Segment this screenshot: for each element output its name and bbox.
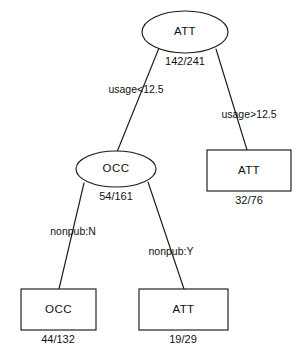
edge-nonpub-y-line <box>148 182 184 289</box>
tree-canvas: ATT 142/241 OCC 54/161 ATT 32/76 OCC 44/… <box>0 0 306 352</box>
node-occ-internal-stat: 54/161 <box>99 190 133 202</box>
node-att-leaf-right-label: ATT <box>238 164 260 176</box>
edge-usage-lt-line <box>117 48 159 152</box>
edge-label-usage-gt: usage>12.5 <box>221 108 276 120</box>
decision-tree-diagram: ATT 142/241 OCC 54/161 ATT 32/76 OCC 44/… <box>0 0 306 352</box>
edge-label-nonpub-n: nonpub:N <box>50 225 96 237</box>
node-occ-internal-label: OCC <box>103 162 130 174</box>
node-root-label: ATT <box>174 25 196 37</box>
node-att-leaf-right-stat: 32/76 <box>235 194 263 206</box>
edge-label-usage-lt: usage<12.5 <box>108 83 163 95</box>
node-att-leaf-bottom-label: ATT <box>172 303 194 315</box>
node-root-stat: 142/241 <box>165 55 205 67</box>
node-occ-leaf-stat: 44/132 <box>41 333 75 345</box>
node-att-leaf-bottom-stat: 19/29 <box>169 333 197 345</box>
edge-label-nonpub-y: nonpub:Y <box>149 245 194 257</box>
node-occ-leaf-label: OCC <box>45 303 72 315</box>
edge-usage-gt-line <box>216 49 247 150</box>
